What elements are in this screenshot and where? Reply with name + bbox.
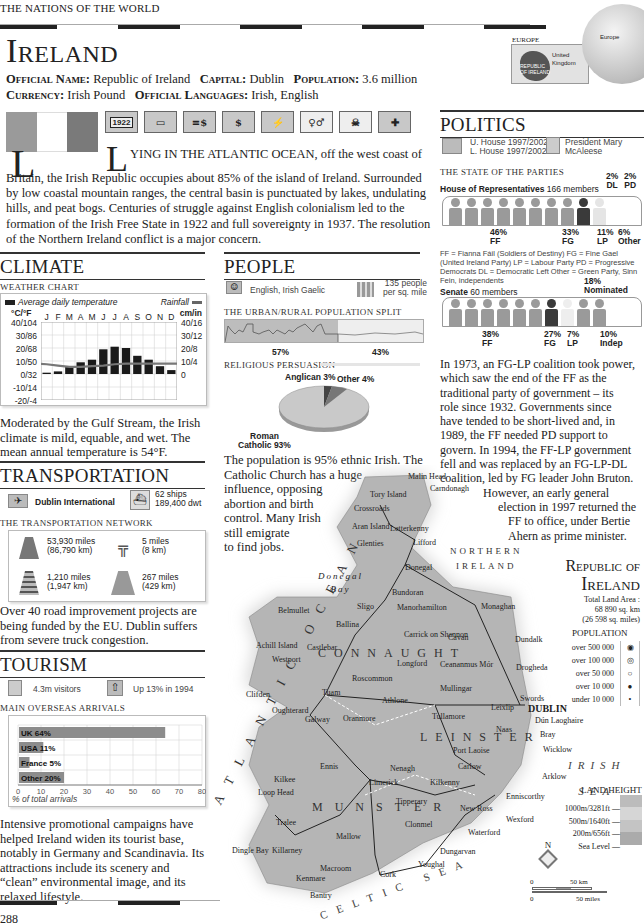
motorway-length: 5 miles(8 km) <box>142 537 169 555</box>
catholic-label: RomanCatholic 93% <box>238 432 291 450</box>
header-stripe <box>0 24 530 29</box>
dl-share: 2%DL <box>606 172 618 190</box>
seat-figure <box>464 198 478 225</box>
month-label: D <box>166 312 177 322</box>
temp-legend: Average daily temperature <box>5 297 118 307</box>
currency-label: Currency: <box>6 88 64 102</box>
religion-subhead: RELIGIOUS PERSUASION <box>224 360 335 370</box>
temp-legend-swatch <box>5 300 15 305</box>
svg-text:Other 20%: Other 20% <box>21 774 61 783</box>
svg-text:UK 64%: UK 64% <box>21 729 51 738</box>
official-name-value: Republic of Ireland <box>93 72 190 86</box>
month-label: A <box>120 312 131 322</box>
province-munster: MUNSTER <box>312 800 453 815</box>
left-tick: -20/-4 <box>1 395 37 408</box>
province-connaught: CONNAUGHT <box>318 646 466 661</box>
seat-figure <box>496 198 510 225</box>
month-label: J <box>109 312 120 322</box>
lower-house-figures <box>442 196 642 226</box>
arrivals-subhead: MAIN OVERSEAS ARRIVALS <box>0 703 125 713</box>
footer-stripe <box>0 900 220 904</box>
svg-text:France 5%: France 5% <box>21 759 61 768</box>
capital-value: Dublin <box>249 72 284 86</box>
density-icon <box>357 282 374 297</box>
compass-icon <box>538 849 558 869</box>
people-heading: PEOPLE <box>224 252 420 280</box>
shipping-info: 62 ships189,400 dwt <box>155 490 201 508</box>
left-axis: 40/10430/8620/6810/500/32-10/14-20/-4 <box>1 317 37 408</box>
seat-figure <box>464 299 478 326</box>
intro-lead: YING IN THE ATLANTIC OCEAN, <box>130 147 318 161</box>
luggage-icon <box>8 680 22 696</box>
northern-ireland-label: NORTHERNIRELAND <box>450 544 522 574</box>
left-tick: 30/86 <box>1 330 37 343</box>
land-area: Total Land Area :68 890 sq. km(26 598 sq… <box>548 595 640 625</box>
month-label: N <box>154 312 165 322</box>
growth-label: Up 13% in 1994 <box>133 684 194 694</box>
seat-figure <box>576 198 590 225</box>
europe-label: EUROPE <box>512 36 539 44</box>
religion-pie <box>277 382 371 434</box>
president-icon <box>546 137 560 154</box>
seat-figure <box>528 198 542 225</box>
lower-lp-share: 11%LP <box>597 228 614 246</box>
country-locator-label: REPUBLIC OF IRELAND <box>520 63 550 75</box>
compass-rose: N <box>538 840 558 882</box>
population-legend-row: over 50 000○ <box>530 667 640 680</box>
left-tick: 0/32 <box>1 369 37 382</box>
languages-label: Official Languages: <box>135 88 248 102</box>
month-label: O <box>143 312 154 322</box>
left-tick: 40/104 <box>1 317 37 330</box>
seat-figure <box>560 198 574 225</box>
capital-label: Capital: <box>200 72 247 86</box>
svg-text:50: 50 <box>129 787 137 796</box>
arrivals-axis-caption: % of total arrivals <box>12 794 77 804</box>
population-legend-row: over 100 000◎ <box>530 654 640 667</box>
tourism-text: Intensive promotional campaigns have hel… <box>0 817 205 904</box>
house-terms: U. House 1997/2002L. House 1997/2002 <box>470 138 548 156</box>
climate-text: Moderated by the Gulf Stream, the Irish … <box>0 416 212 460</box>
seat-figure <box>560 299 574 326</box>
arrivals-chart: UK 64%USA 11%France 5%Other 20%010203040… <box>8 715 206 807</box>
lower-other-share: 6%Other <box>618 228 641 246</box>
waterway-length: 267 miles(429 km) <box>142 573 178 591</box>
uk-label: United Kingdom <box>552 51 582 67</box>
waterway-icon <box>111 571 135 595</box>
senate-label: Senate 60 members <box>440 287 518 297</box>
health-icon: ✚ <box>378 111 411 133</box>
globe-label: Europe <box>600 34 619 40</box>
transportation-text: Over 40 road improvement projects are be… <box>0 604 212 648</box>
month-label: M <box>86 312 97 322</box>
climate-icon: ⚡ <box>261 111 294 133</box>
population-legend-row: over 500 000◉ <box>530 641 640 654</box>
globe: Europe <box>582 4 644 84</box>
people-languages: English, Irish Gaelic <box>250 285 325 295</box>
month-label: A <box>75 312 86 322</box>
scale-miles-label: 50 miles <box>576 895 600 903</box>
parties-subhead: THE STATE OF THE PARTIES <box>440 167 564 177</box>
land-height-legend-row: 500m/1640ft — <box>540 816 620 829</box>
anglican-label: Anglican 3% <box>285 372 336 382</box>
population-value: 3.6 million <box>362 72 417 86</box>
skull-icon: ☠ <box>339 111 372 133</box>
seat-figure <box>544 198 558 225</box>
weather-chart: Average daily temperature Rainfall °C/°F… <box>0 293 207 406</box>
scale-bar: 0 50 km 0 50 miles <box>530 878 610 908</box>
right-tick: 30/12 <box>181 330 207 343</box>
right-tick: 40/16 <box>181 317 207 330</box>
politics-heading: POLITICS <box>440 110 644 138</box>
airplane-icon: ✈ <box>8 494 28 508</box>
senate-ff-share: 38%FF <box>482 330 499 348</box>
seat-figure <box>592 299 606 326</box>
seat-figure <box>480 299 494 326</box>
rain-legend-swatch <box>192 301 202 304</box>
land-height-legend-row: 200m/656ft — <box>540 828 620 841</box>
month-label: M <box>64 312 75 322</box>
weather-chart-subhead: WEATHER CHART <box>0 282 79 292</box>
urban-pct: 57% <box>272 347 289 357</box>
voting-icon: ▭ <box>144 111 177 133</box>
senate-indep-share: 18%Nominated <box>584 277 628 295</box>
urban-rural-bar <box>224 319 424 343</box>
left-tick: 20/68 <box>1 343 37 356</box>
running-head: THE NATIONS OF THE WORLD <box>0 2 160 14</box>
